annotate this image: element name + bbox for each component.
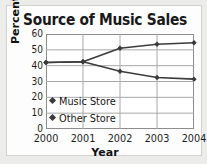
y-axis-tick-label: 40 xyxy=(23,61,43,71)
diamond-marker-icon xyxy=(48,96,57,105)
data-point-marker xyxy=(154,42,159,47)
legend-label-other-store: Other Store xyxy=(59,112,116,124)
x-axis-tick-label: 2000 xyxy=(30,132,62,145)
legend-label-music-store: Music Store xyxy=(59,95,116,107)
x-axis-tick-label: 2001 xyxy=(67,132,99,145)
data-point-marker xyxy=(80,59,85,64)
chart-legend: Music Store Other Store xyxy=(48,92,158,126)
data-point-marker xyxy=(191,40,196,45)
data-point-marker xyxy=(154,75,159,80)
chart-card: Source of Music Sales Percent 0102030405… xyxy=(6,5,202,156)
data-point-marker xyxy=(191,76,196,81)
y-axis-tick-labels: 0102030405060 xyxy=(21,29,43,134)
y-axis-tick-label: 50 xyxy=(23,45,43,55)
y-axis-tick-label: 60 xyxy=(23,29,43,39)
x-axis-tick-label: 2002 xyxy=(104,132,136,145)
chart-page: Source of Music Sales Percent 0102030405… xyxy=(0,0,207,164)
legend-item: Other Store xyxy=(48,109,158,126)
y-axis-tick-label: 30 xyxy=(23,77,43,87)
data-point-marker xyxy=(117,69,122,74)
x-axis-tick-label: 2003 xyxy=(141,132,173,145)
x-axis-tick-labels: 20002001200220032004 xyxy=(46,132,194,146)
plot-area-wrapper: Music Store Other Store xyxy=(46,34,194,129)
data-point-marker xyxy=(43,60,48,65)
chart-title: Source of Music Sales xyxy=(15,11,195,29)
y-axis-tick-label: 10 xyxy=(23,108,43,118)
y-axis-tick-label: 20 xyxy=(23,92,43,102)
data-point-marker xyxy=(117,46,122,51)
x-axis-title: Year xyxy=(7,146,203,159)
x-axis-tick-label: 2004 xyxy=(178,132,207,145)
legend-item: Music Store xyxy=(48,92,158,109)
diamond-marker-icon xyxy=(48,113,57,122)
